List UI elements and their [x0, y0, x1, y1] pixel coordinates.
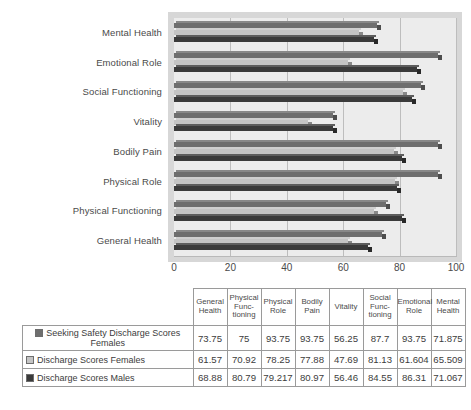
table-cell-value: 61.604 [397, 351, 431, 369]
legend-label-text: Seeking Safety Discharge Scores [46, 328, 180, 338]
legend-row-label: Discharge Scores Females [23, 351, 194, 369]
legend-swatch [26, 356, 34, 364]
chart-container: Mental HealthEmotional RoleSocial Functi… [0, 0, 471, 285]
table-cell-value: 75 [227, 326, 261, 351]
header-line: tioning [228, 311, 261, 320]
x-tick-label-40: 40 [281, 262, 292, 273]
table-cell-value: 93.75 [397, 326, 431, 351]
bar [174, 186, 397, 191]
bar-side-face [382, 234, 386, 239]
table-column-header: PhysicalRole [261, 289, 295, 326]
bar-side-face [402, 158, 406, 163]
table-body: Seeking Safety Discharge ScoresFemales73… [23, 326, 466, 387]
category-label-general-health: General Health [97, 235, 162, 246]
bar-side-face [377, 25, 381, 30]
category-label-mental-health: Mental Health [102, 27, 162, 38]
table-column-header: EmotionalRole [397, 289, 431, 326]
category-label-physical-role: Physical Role [103, 176, 162, 187]
plot-area [168, 12, 462, 262]
table-column-header: PhysicalFunc-tioning [227, 289, 261, 326]
table-cell-value: 56.46 [329, 369, 363, 387]
table-column-header: SocialFunc-tioning [363, 289, 397, 326]
legend-swatch [26, 374, 34, 382]
x-tick-label-20: 20 [225, 262, 236, 273]
bar-front-face [174, 156, 402, 161]
table-cell-value: 70.92 [227, 351, 261, 369]
gridline [456, 18, 457, 256]
bar-side-face [368, 247, 372, 252]
bar [174, 37, 374, 42]
category-label-bodily-pain: Bodily Pain [113, 146, 162, 157]
bar-front-face [174, 67, 417, 72]
bar-front-face [174, 216, 402, 221]
bar-side-face [397, 188, 401, 193]
table-head: GeneralHealthPhysicalFunc-tioningPhysica… [23, 289, 466, 326]
bar [174, 97, 412, 102]
bar [174, 67, 417, 72]
header-line: tioning [364, 311, 397, 320]
table-column-header: GeneralHealth [193, 289, 227, 326]
table-cell-value: 61.57 [193, 351, 227, 369]
bar [174, 216, 402, 221]
bar-front-face [174, 126, 333, 131]
category-label-emotional-role: Emotional Role [96, 57, 162, 68]
x-tick-label-80: 80 [394, 262, 405, 273]
x-tick-label-100: 100 [448, 262, 465, 273]
table-cell-value: 71.067 [431, 369, 465, 387]
bar-side-face [333, 128, 337, 133]
x-tick-label-60: 60 [338, 262, 349, 273]
header-line: Pain [296, 307, 329, 316]
table-corner-cell [23, 289, 194, 326]
category-label-social-functioning: Social Functioning [83, 86, 162, 97]
bar-side-face [421, 85, 425, 90]
table-column-header: MentalHealth [431, 289, 465, 326]
table-row: Seeking Safety Discharge ScoresFemales73… [23, 326, 466, 351]
header-line: Role [398, 307, 431, 316]
table-cell-value: 56.25 [329, 326, 363, 351]
header-line: Health [194, 307, 227, 316]
table-cell-value: 73.75 [193, 326, 227, 351]
data-table: GeneralHealthPhysicalFunc-tioningPhysica… [22, 288, 466, 387]
table-cell-value: 47.69 [329, 351, 363, 369]
table-column-header: Vitality [329, 289, 363, 326]
table-cell-value: 87.7 [363, 326, 397, 351]
legend-label-text: Discharge Scores Males [37, 373, 135, 383]
bar-front-face [174, 186, 397, 191]
bar-side-face [412, 99, 416, 104]
table-cell-value: 79.217 [261, 369, 295, 387]
bar-side-face [402, 218, 406, 223]
table-cell-value: 68.88 [193, 369, 227, 387]
value-axis-labels: 020406080100 [168, 262, 462, 282]
table-cell-value: 78.25 [261, 351, 295, 369]
bar [174, 156, 402, 161]
bar-front-face [174, 245, 368, 250]
header-line: Vitality [330, 303, 363, 312]
legend-swatch [35, 329, 43, 337]
table-cell-value: 81.13 [363, 351, 397, 369]
bar-side-face [374, 39, 378, 44]
category-label-physical-functioning: Physical Functioning [73, 205, 162, 216]
table-cell-value: 86.31 [397, 369, 431, 387]
table-row: Discharge Scores Males68.8880.7979.21780… [23, 369, 466, 387]
legend-label-text: Discharge Scores Females [37, 355, 145, 365]
table-cell-value: 80.79 [227, 369, 261, 387]
category-axis-labels: Mental HealthEmotional RoleSocial Functi… [0, 18, 168, 256]
x-tick-label-0: 0 [171, 262, 177, 273]
header-line: Health [432, 307, 465, 316]
legend-row-label: Seeking Safety Discharge ScoresFemales [23, 326, 194, 351]
table-cell-value: 93.75 [295, 326, 329, 351]
table-cell-value: 71.875 [431, 326, 465, 351]
table-cell-value: 80.97 [295, 369, 329, 387]
bar-side-face [386, 204, 390, 209]
table-cell-value: 93.75 [261, 326, 295, 351]
bar-side-face [333, 115, 337, 120]
bar-side-face [417, 69, 421, 74]
bar-side-face [438, 55, 442, 60]
bar-front-face [174, 37, 374, 42]
bar-side-face [438, 174, 442, 179]
bar-side-face [438, 144, 442, 149]
table-cell-value: 77.88 [295, 351, 329, 369]
bar [174, 245, 368, 250]
header-line: Role [262, 307, 295, 316]
table-cell-value: 84.55 [363, 369, 397, 387]
